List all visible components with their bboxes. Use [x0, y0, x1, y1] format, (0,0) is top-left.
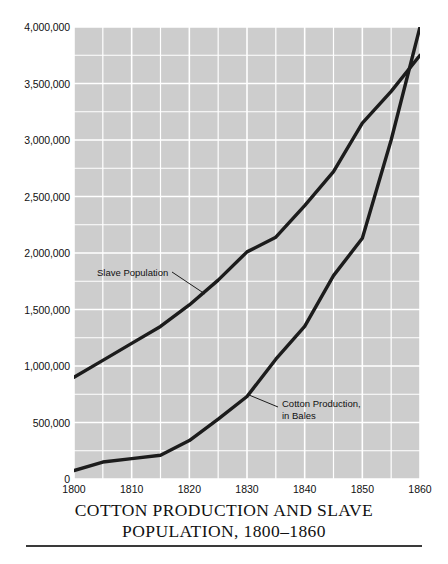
x-tick-label: 1860 [408, 484, 431, 495]
annotation-slave-population: Slave Population [97, 267, 168, 279]
bottom-divider-rule [26, 545, 422, 547]
x-tick-label: 1810 [120, 484, 143, 495]
caption-line-1: COTTON PRODUCTION AND SLAVE [0, 500, 448, 521]
x-tick-label: 1850 [351, 484, 374, 495]
annotation-cotton-production: Cotton Production, in Bales [282, 398, 361, 421]
chart-figure: 0500,0001,000,0001,500,0002,000,0002,500… [0, 0, 448, 564]
x-tick-label: 1840 [293, 484, 316, 495]
chart-caption: COTTON PRODUCTION AND SLAVE POPULATION, … [0, 500, 448, 542]
x-tick-label: 1820 [178, 484, 201, 495]
caption-line-2: POPULATION, 1800–1860 [0, 521, 448, 542]
x-tick-label: 1800 [62, 484, 85, 495]
x-tick-label: 1830 [235, 484, 258, 495]
x-axis-labels: 1800181018201830184018501860 [0, 0, 448, 564]
